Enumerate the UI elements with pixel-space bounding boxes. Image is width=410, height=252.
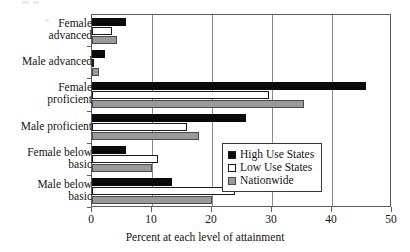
legend-item: Nationwide bbox=[228, 174, 314, 187]
x-tick-mark bbox=[151, 207, 152, 212]
scan-artifact bbox=[22, 1, 29, 4]
y-tick-mark bbox=[87, 143, 92, 144]
category-label-line: basic bbox=[0, 158, 92, 170]
bar-low-use-states bbox=[92, 155, 158, 163]
legend-item: Low Use States bbox=[228, 161, 314, 174]
x-tick-label: 10 bbox=[136, 213, 166, 225]
bar-low-use-states bbox=[92, 27, 112, 35]
bar-high-use-states bbox=[92, 178, 172, 186]
category-label: Male proficient bbox=[0, 120, 92, 132]
white-swatch bbox=[228, 164, 236, 172]
category-label-line: proficient bbox=[0, 93, 92, 105]
chart-root: FemaleadvancedMale advancedFemaleprofici… bbox=[0, 0, 410, 252]
category-label-line: Male advanced bbox=[0, 55, 92, 67]
category-label-line: Female bbox=[0, 81, 92, 93]
category-label-line: Female bbox=[0, 17, 92, 29]
x-tick-mark bbox=[391, 207, 392, 212]
category-label-line: basic bbox=[0, 190, 92, 202]
bar-high-use-states bbox=[92, 146, 126, 154]
legend-label: Nationwide bbox=[240, 174, 294, 187]
legend-item: High Use States bbox=[228, 148, 314, 161]
bar-low-use-states bbox=[92, 123, 187, 131]
black-swatch bbox=[228, 151, 236, 159]
x-tick-label: 0 bbox=[76, 213, 106, 225]
bar-low-use-states bbox=[92, 91, 269, 99]
bar-low-use-states bbox=[92, 187, 235, 195]
bar-nationwide bbox=[92, 196, 212, 204]
bar-nationwide bbox=[92, 100, 304, 108]
bar-high-use-states bbox=[92, 82, 366, 90]
category-label: Femaleadvanced bbox=[0, 17, 92, 41]
y-tick-mark bbox=[87, 175, 92, 176]
y-tick-mark bbox=[87, 207, 92, 208]
y-tick-mark bbox=[87, 111, 92, 112]
y-tick-mark bbox=[87, 46, 92, 47]
category-label-line: Male proficient bbox=[0, 120, 92, 132]
x-tick-mark bbox=[271, 207, 272, 212]
x-tick-label: 30 bbox=[256, 213, 286, 225]
legend-label: High Use States bbox=[240, 148, 314, 161]
category-label-line: advanced bbox=[0, 29, 92, 41]
x-axis-title: Percent at each level of attainment bbox=[0, 231, 410, 243]
gray-swatch bbox=[228, 177, 236, 185]
bar-nationwide bbox=[92, 132, 199, 140]
category-label-line: Female below bbox=[0, 146, 92, 158]
x-tick-label: 40 bbox=[316, 213, 346, 225]
bar-nationwide bbox=[92, 36, 117, 44]
bar-low-use-states bbox=[92, 59, 94, 67]
bar-nationwide bbox=[92, 164, 152, 172]
x-tick-mark bbox=[211, 207, 212, 212]
bar-high-use-states bbox=[92, 18, 126, 26]
bar-high-use-states bbox=[92, 114, 246, 122]
y-tick-mark bbox=[87, 78, 92, 79]
category-label: Male belowbasic bbox=[0, 178, 92, 202]
bar-nationwide bbox=[92, 68, 99, 76]
gridline bbox=[332, 15, 333, 206]
category-label: Female belowbasic bbox=[0, 146, 92, 170]
bar-high-use-states bbox=[92, 50, 105, 58]
gridline bbox=[212, 15, 213, 206]
x-tick-label: 50 bbox=[376, 213, 406, 225]
x-tick-label: 20 bbox=[196, 213, 226, 225]
x-tick-mark bbox=[331, 207, 332, 212]
chart-legend: High Use StatesLow Use StatesNationwide bbox=[222, 143, 322, 192]
scan-artifact bbox=[33, 1, 39, 4]
category-label-line: Male below bbox=[0, 178, 92, 190]
gridline bbox=[152, 15, 153, 206]
category-label: Male advanced bbox=[0, 55, 92, 67]
category-label: Femaleproficient bbox=[0, 81, 92, 105]
legend-label: Low Use States bbox=[240, 161, 312, 174]
